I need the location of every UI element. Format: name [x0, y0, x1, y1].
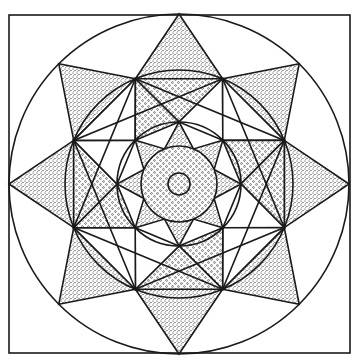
central-disc: [141, 146, 217, 222]
outer-star-tip: [284, 140, 349, 227]
outer-star-tip: [135, 14, 222, 79]
outer-star-tip: [135, 289, 222, 354]
outer-star-tip: [9, 140, 74, 227]
mandala-figure: [0, 0, 354, 364]
